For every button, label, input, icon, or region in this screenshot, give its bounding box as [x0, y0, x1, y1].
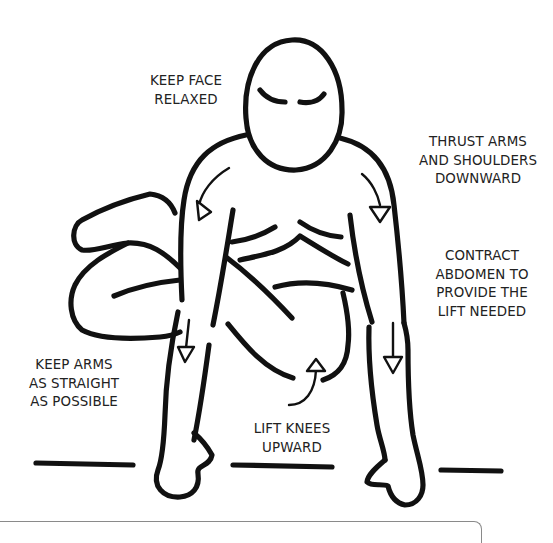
right-inner-upper-arm	[350, 215, 372, 322]
torso-outline	[181, 135, 404, 323]
bottom-border	[0, 521, 482, 543]
left-eye	[260, 90, 285, 102]
knee-arrow	[289, 359, 325, 405]
left-shoulder-line	[181, 135, 246, 300]
right-forearm	[367, 323, 423, 505]
floor-lines	[36, 463, 501, 471]
right-leg	[228, 293, 349, 380]
label-keep-face-relaxed: KEEP FACE RELAXED	[140, 72, 232, 109]
left-forearm	[156, 312, 212, 497]
head	[246, 40, 342, 170]
label-thrust-arms: THRUST ARMS AND SHOULDERS DOWNWARD	[402, 133, 553, 189]
label-lift-knees: LIFT KNEES UPWARD	[246, 420, 338, 457]
right-forearm-arrow	[384, 323, 402, 373]
label-contract-abdomen: CONTRACT ABDOMEN TO PROVIDE THE LIFT NEE…	[424, 247, 540, 321]
right-eye	[300, 94, 324, 103]
right-shoulder-arrow	[362, 174, 390, 222]
left-shoulder-arrow	[197, 168, 229, 220]
abdomen-creases	[226, 222, 352, 318]
left-inner-upper-arm	[213, 210, 233, 325]
left-leg	[71, 194, 180, 338]
label-keep-arms-straight: KEEP ARMS AS STRAIGHT AS POSSIBLE	[22, 356, 126, 412]
left-forearm-arrow	[178, 320, 194, 362]
